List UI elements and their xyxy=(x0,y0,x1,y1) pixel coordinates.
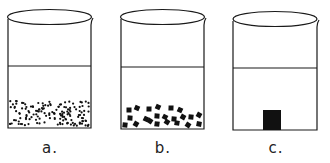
beaker-c-rim xyxy=(233,12,317,27)
beaker-b-body xyxy=(121,18,206,129)
beaker-b-rim xyxy=(121,10,205,25)
beaker-b xyxy=(121,10,207,130)
label-c: c. xyxy=(256,139,296,157)
label-b: b. xyxy=(143,139,183,157)
beaker-a-fine-particles xyxy=(9,100,90,127)
beaker-c-solid-block xyxy=(263,110,281,130)
beaker-b-medium-particles xyxy=(122,104,202,129)
beaker-a-rim xyxy=(8,10,92,25)
label-a: a. xyxy=(30,139,70,157)
